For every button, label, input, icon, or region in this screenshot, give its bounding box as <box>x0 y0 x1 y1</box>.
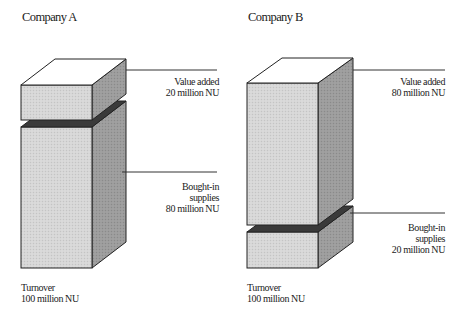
company-b-value-added-block <box>247 58 353 225</box>
company-a-turnover-label: Turnover 100 million NU <box>21 282 79 304</box>
company-b-value-added-label: Value added 80 million NU <box>392 76 445 98</box>
company-b-title: Company B <box>248 10 303 25</box>
company-a-turnover-line2: 100 million NU <box>21 293 79 304</box>
company-a-turnover-line1: Turnover <box>21 282 79 293</box>
company-b-value-added-line1: Value added <box>392 76 445 87</box>
company-a-bought-in-label: Bought-in supplies 80 million NU <box>166 181 219 214</box>
company-a-bought-in-line1: Bought-in <box>166 181 219 192</box>
company-b-bought-in-label: Bought-in supplies 20 million NU <box>392 222 445 255</box>
company-a-bought-in-line2: supplies <box>166 192 219 203</box>
company-b-bought-in-line3: 20 million NU <box>392 244 445 255</box>
company-a-bought-in-line3: 80 million NU <box>166 203 219 214</box>
company-b-turnover-label: Turnover 100 million NU <box>247 282 305 304</box>
company-a-title: Company A <box>22 10 77 25</box>
company-b-bought-in-line1: Bought-in <box>392 222 445 233</box>
company-a-value-added-line1: Value added <box>166 76 219 87</box>
value-added-diagram <box>0 0 465 321</box>
company-a-bought-in-block <box>21 101 126 268</box>
company-b-value-added-line2: 80 million NU <box>392 87 445 98</box>
company-b-turnover-line1: Turnover <box>247 282 305 293</box>
company-b-bought-in-line2: supplies <box>392 233 445 244</box>
company-a-value-added-label: Value added 20 million NU <box>166 76 219 98</box>
company-a-value-added-line2: 20 million NU <box>166 87 219 98</box>
company-b-turnover-line2: 100 million NU <box>247 293 305 304</box>
